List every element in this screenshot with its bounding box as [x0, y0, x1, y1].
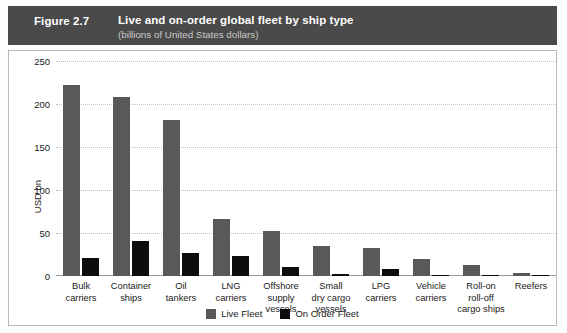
x-axis-category-label-line: Container — [111, 281, 151, 293]
bar-live-fleet[interactable] — [63, 85, 80, 276]
legend-item[interactable]: Live Fleet — [206, 308, 262, 319]
x-axis-category-label-line: Offshore — [263, 281, 299, 293]
x-axis-category-label: Bulkcarriers — [66, 281, 97, 304]
bar-on-order-fleet[interactable] — [332, 274, 349, 276]
bar-on-order-fleet[interactable] — [182, 253, 199, 276]
bar-live-fleet[interactable] — [313, 246, 330, 276]
figure-subtitle: (billions of United States dollars) — [118, 29, 259, 40]
y-axis-tick-label: 50 — [39, 229, 50, 239]
bar-group: Oiltankers — [156, 61, 206, 276]
bar-live-fleet[interactable] — [513, 273, 530, 276]
legend-square-swatch-icon — [206, 309, 216, 319]
bar-live-fleet[interactable] — [413, 259, 430, 276]
x-axis-category-label-line: supply — [263, 293, 299, 305]
legend-label: Live Fleet — [221, 308, 262, 319]
x-axis-category-label-line: Reefers — [515, 281, 548, 293]
plot-area: 050100150200250 BulkcarriersContainershi… — [56, 61, 556, 276]
x-axis-category-label-line: roll-off — [457, 293, 505, 305]
y-axis-title: USD bn — [32, 167, 43, 227]
bar-group: Smalldry cargovessels — [306, 61, 356, 276]
x-axis-category-label-line: Bulk — [66, 281, 97, 293]
bar-live-fleet[interactable] — [163, 120, 180, 276]
figure-header-band: Figure 2.7 Live and on-order global flee… — [8, 6, 557, 45]
x-axis-category-label-line: LPG — [366, 281, 397, 293]
figure-container: Figure 2.7 Live and on-order global flee… — [0, 0, 567, 333]
x-axis-category-label: LPGcarriers — [366, 281, 397, 304]
x-axis-category-label-line: Oil — [166, 281, 197, 293]
y-axis-tick-label: 150 — [34, 143, 50, 153]
bar-group: Vehiclecarriers — [406, 61, 456, 276]
legend-square-swatch-icon — [280, 309, 290, 319]
x-axis-category-label-line: carriers — [366, 293, 397, 305]
x-axis-category-label-line: Roll-on — [457, 281, 505, 293]
bar-group: LNGcarriers — [206, 61, 256, 276]
bar-live-fleet[interactable] — [363, 248, 380, 276]
x-axis-category-label-line: ships — [111, 293, 151, 305]
y-axis-tick-label: 0 — [45, 272, 50, 282]
x-axis-category-label: LNGcarriers — [216, 281, 247, 304]
legend-item[interactable]: On Order Fleet — [280, 308, 358, 319]
bar-group: Roll-onroll-offcargo ships — [456, 61, 506, 276]
x-axis-category-label: Vehiclecarriers — [416, 281, 447, 304]
bar-live-fleet[interactable] — [213, 219, 230, 276]
bar-group: LPGcarriers — [356, 61, 406, 276]
bar-on-order-fleet[interactable] — [482, 275, 499, 277]
bar-group: Containerships — [106, 61, 156, 276]
bar-on-order-fleet[interactable] — [82, 258, 99, 276]
bar-on-order-fleet[interactable] — [132, 241, 149, 276]
x-axis-category-label-line: carriers — [216, 293, 247, 305]
bar-live-fleet[interactable] — [113, 97, 130, 276]
x-axis-category-label: Reefers — [515, 281, 548, 293]
bar-on-order-fleet[interactable] — [532, 275, 549, 277]
x-axis-category-label: Oiltankers — [166, 281, 197, 304]
figure-number-label: Figure 2.7 — [34, 15, 89, 27]
x-axis-category-label-line: LNG — [216, 281, 247, 293]
bar-group: Offshoresupplyvessels — [256, 61, 306, 276]
bar-group: Bulkcarriers — [56, 61, 106, 276]
x-axis-category-label-line: carriers — [416, 293, 447, 305]
bar-on-order-fleet[interactable] — [282, 267, 299, 276]
x-axis-category-label-line: tankers — [166, 293, 197, 305]
chart-legend: Live FleetOn Order Fleet — [9, 308, 556, 319]
bar-live-fleet[interactable] — [263, 231, 280, 276]
x-axis-category-label: Containerships — [111, 281, 151, 304]
bar-group: Reefers — [506, 61, 556, 276]
bar-on-order-fleet[interactable] — [382, 269, 399, 276]
bar-live-fleet[interactable] — [463, 265, 480, 276]
x-axis-category-label-line: Vehicle — [416, 281, 447, 293]
x-axis-category-label-line: dry cargo — [312, 293, 351, 305]
x-axis-category-label-line: Small — [312, 281, 351, 293]
bar-on-order-fleet[interactable] — [432, 275, 449, 277]
legend-label: On Order Fleet — [295, 308, 358, 319]
y-axis-tick-label: 250 — [34, 57, 50, 67]
y-axis-tick-label: 100 — [34, 186, 50, 196]
x-axis-category-label-line: carriers — [66, 293, 97, 305]
y-axis-tick-label: 200 — [34, 100, 50, 110]
figure-title: Live and on-order global fleet by ship t… — [118, 14, 354, 26]
figure-header-inner: Figure 2.7 Live and on-order global flee… — [8, 6, 557, 45]
gridline: 0 — [56, 276, 556, 277]
bar-on-order-fleet[interactable] — [232, 256, 249, 276]
chart-frame: USD bn 050100150200250 BulkcarriersConta… — [8, 50, 557, 326]
